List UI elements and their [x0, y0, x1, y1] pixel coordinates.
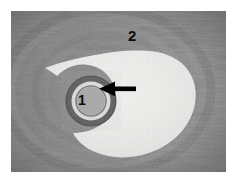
tissue-field: [11, 11, 226, 172]
annotation-label-2: 2: [128, 28, 136, 43]
figure-caption: [60, 176, 172, 185]
vignette: [11, 11, 226, 172]
micrograph-canvas: [11, 11, 226, 172]
micrograph-image: 2 1: [11, 11, 226, 172]
annotation-label-1: 1: [78, 93, 86, 107]
figure-root: 2 1: [0, 0, 234, 188]
